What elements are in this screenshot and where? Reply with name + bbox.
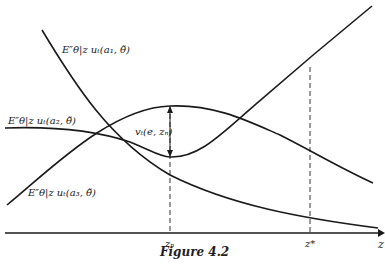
label-vt: vₜ(e, zₙ) bbox=[135, 126, 173, 137]
tick-zstar: z* bbox=[304, 238, 315, 249]
label-a3: E″θ|z uₜ(a₃, θ̃) bbox=[27, 187, 96, 199]
label-a1: E″θ|z uₜ(a₁, θ̃) bbox=[61, 44, 130, 56]
arrow-down-icon bbox=[167, 150, 173, 157]
arrow-up-icon bbox=[167, 106, 173, 113]
curve-a2 bbox=[5, 6, 372, 157]
label-a2: E″θ|z uₜ(a₂, θ̃) bbox=[7, 115, 76, 127]
axis-arrow-icon bbox=[378, 229, 385, 237]
figure-caption: Figure 4.2 bbox=[160, 245, 229, 259]
axis-label-z: z bbox=[377, 238, 384, 251]
figure-diagram: E″θ|z uₜ(a₁, θ̃) E″θ|z uₜ(a₂, θ̃) E″θ|z … bbox=[0, 0, 385, 264]
curve-a1 bbox=[42, 30, 378, 228]
